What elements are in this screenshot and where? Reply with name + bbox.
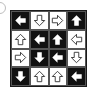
arrow-down-icon: [33, 14, 46, 27]
option-marker-circle[interactable]: [0, 2, 6, 14]
grid-cell-r1c3: [49, 11, 68, 30]
grid-cell-r2c4: [67, 30, 86, 49]
grid-cell-r2c3: [49, 30, 68, 49]
arrow-left-icon: [70, 70, 83, 83]
grid-cell-r1c1: [11, 11, 30, 30]
arrow-left-icon: [14, 14, 27, 27]
grid-cell-r2c1: [11, 30, 30, 49]
grid-cell-r1c2: [30, 11, 49, 30]
arrow-up-icon: [33, 70, 46, 83]
arrow-down-icon: [33, 51, 46, 64]
grid-cell-r4c2: [30, 67, 49, 86]
arrow-left-icon: [33, 33, 46, 46]
grid-cell-r3c2: [30, 49, 49, 68]
grid-cell-r2c2: [30, 30, 49, 49]
arrow-down-icon: [70, 51, 83, 64]
arrow-up-icon: [51, 33, 64, 46]
arrow-up-icon: [70, 14, 83, 27]
arrow-up-icon: [14, 33, 27, 46]
arrow-up-icon: [51, 70, 64, 83]
grid-cell-r4c3: [49, 67, 68, 86]
grid-cell-r1c4: [67, 11, 86, 30]
arrow-right-icon: [14, 51, 27, 64]
arrow-left-icon: [51, 51, 64, 64]
arrow-grid: [10, 10, 87, 87]
arrow-right-icon: [51, 14, 64, 27]
grid-cell-r3c1: [11, 49, 30, 68]
grid-cell-r3c4: [67, 49, 86, 68]
grid-cell-r4c4: [67, 67, 86, 86]
arrow-down-icon: [14, 70, 27, 83]
grid-cell-r4c1: [11, 67, 30, 86]
grid-cell-r3c3: [49, 49, 68, 68]
arrow-left-icon: [70, 33, 83, 46]
